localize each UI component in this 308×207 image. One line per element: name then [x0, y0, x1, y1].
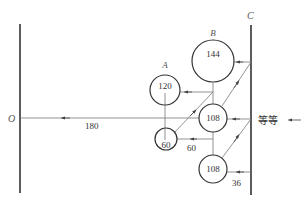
small-to-b-arrow	[190, 111, 195, 116]
node-a-value: 120	[158, 81, 172, 91]
bottom-to-c-label: 36	[232, 178, 242, 188]
node-b-label: B	[210, 28, 216, 38]
main-flow-label: 180	[85, 121, 99, 131]
mid-to-c-arrow	[234, 82, 238, 88]
flow-diagram: O C 180 60 36 等等 120 A 144 B 108	[0, 0, 308, 207]
node-b-circle	[192, 40, 234, 82]
node-small-value: 60	[162, 140, 172, 150]
node-bottom-value: 108	[206, 164, 220, 174]
node-mid-value: 108	[206, 113, 220, 123]
right-line-label: C	[247, 10, 254, 21]
mid-to-small-label: 60	[187, 143, 197, 153]
node-b-value: 144	[206, 49, 220, 59]
node-a-label: A	[161, 60, 168, 70]
input-label: 等等	[258, 114, 278, 126]
left-line-label: O	[8, 113, 15, 124]
bottom-to-c-arrow	[234, 136, 238, 142]
